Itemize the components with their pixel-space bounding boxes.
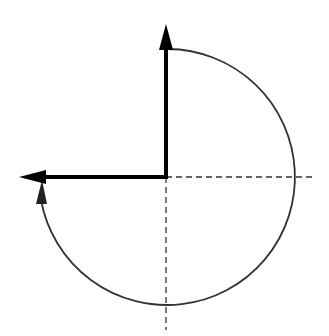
initial-vector-arrowhead-icon [159,24,173,50]
rotated-vector-arrowhead-icon [19,170,46,184]
rotation-diagram [0,0,329,336]
